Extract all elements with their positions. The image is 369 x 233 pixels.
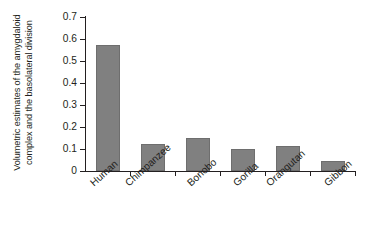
y-tick-mark-0.1 — [80, 149, 85, 150]
y-tick-label-0.1: 0.1 — [50, 144, 77, 154]
y-tick-mark-0.6 — [80, 39, 85, 40]
y-axis-title: Volumetric estimates of the amygdaloid c… — [0, 0, 46, 186]
bar-human — [96, 45, 120, 171]
y-tick-mark-0.2 — [80, 127, 85, 128]
y-axis-title-line-2: complex and the basolateral division — [23, 15, 35, 171]
y-tick-mark-0.5 — [80, 61, 85, 62]
y-tick-label-0.2: 0.2 — [50, 122, 77, 132]
y-tick-label-0.6: 0.6 — [50, 34, 77, 44]
y-tick-label-0: 0 — [50, 166, 77, 176]
x-tick-mark-5 — [310, 171, 311, 176]
y-tick-label-0.4: 0.4 — [50, 78, 77, 88]
y-tick-label-0.7: 0.7 — [50, 12, 77, 22]
bar-chart-figure: Volumetric estimates of the amygdaloid c… — [0, 0, 369, 233]
y-axis-line — [85, 16, 86, 172]
y-tick-mark-0.3 — [80, 105, 85, 106]
y-tick-mark-0.4 — [80, 83, 85, 84]
x-tick-mark-2 — [175, 171, 176, 176]
y-tick-mark-0.7 — [80, 17, 85, 18]
x-tick-mark-3 — [220, 171, 221, 176]
y-tick-label-0.3: 0.3 — [50, 100, 77, 110]
y-axis-title-line-1: Volumetric estimates of the amygdaloid — [11, 15, 23, 171]
x-tick-mark-6 — [355, 171, 356, 176]
y-tick-mark-0 — [80, 171, 85, 172]
y-tick-label-0.5: 0.5 — [50, 56, 77, 66]
x-tick-mark-4 — [265, 171, 266, 176]
